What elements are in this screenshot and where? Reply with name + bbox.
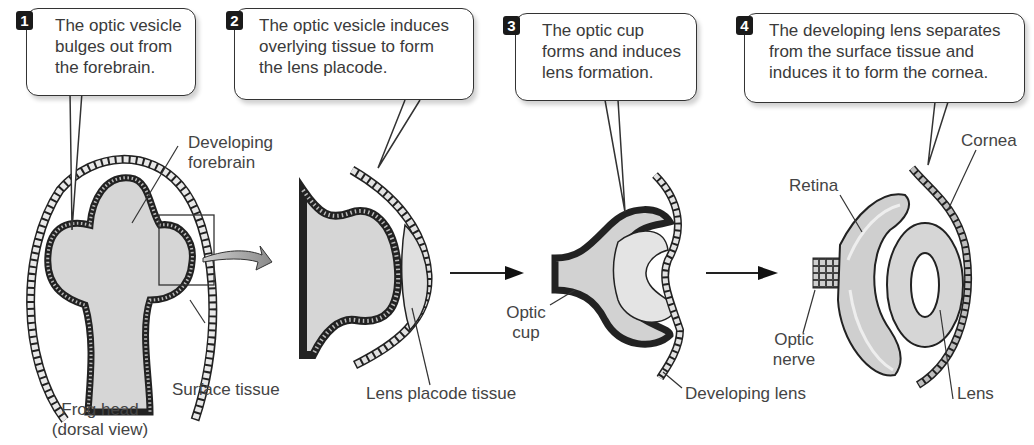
step-2-callout: The optic vesicle induces overlying tiss… bbox=[234, 8, 474, 100]
label-frog-head: Frog head (dorsal view) bbox=[50, 400, 150, 440]
label-surface-tissue: Surface tissue bbox=[172, 380, 280, 400]
label-developing-forebrain: Developing forebrain bbox=[188, 133, 273, 173]
progression-arrow bbox=[706, 266, 778, 280]
step-4-callout: The developing lens separates from the s… bbox=[744, 13, 1025, 103]
step-4-text: The developing lens separates from the s… bbox=[755, 20, 1016, 83]
label-lens: Lens bbox=[957, 384, 994, 404]
step-2-text: The optic vesicle induces overlying tiss… bbox=[245, 15, 465, 78]
label-developing-lens: Developing lens bbox=[685, 384, 806, 404]
progression-arrow bbox=[450, 266, 524, 280]
label-optic-nerve: Optic nerve bbox=[764, 330, 824, 370]
step-4-badge: 4 bbox=[736, 16, 753, 35]
label-lens-placode-tissue: Lens placode tissue bbox=[366, 384, 516, 404]
lens-placode-illustration bbox=[303, 170, 428, 365]
label-retina: Retina bbox=[789, 176, 838, 196]
label-optic-cup: Optic cup bbox=[496, 303, 556, 343]
eye-illustration bbox=[813, 168, 968, 385]
step-3-text: The optic cup forms and induces lens for… bbox=[526, 20, 688, 83]
step-2-badge: 2 bbox=[226, 11, 243, 30]
step-3-callout: The optic cup forms and induces lens for… bbox=[515, 13, 697, 101]
step-1-callout: The optic vesicle bulges out from the fo… bbox=[26, 8, 196, 96]
step-1-badge: 1 bbox=[16, 11, 33, 30]
step-3-badge: 3 bbox=[503, 16, 520, 35]
optic-cup-illustration bbox=[555, 175, 680, 378]
step-1-text: The optic vesicle bulges out from the fo… bbox=[37, 15, 187, 78]
eye-development-diagram: The optic vesicle bulges out from the fo… bbox=[0, 0, 1034, 445]
label-cornea: Cornea bbox=[961, 131, 1017, 151]
